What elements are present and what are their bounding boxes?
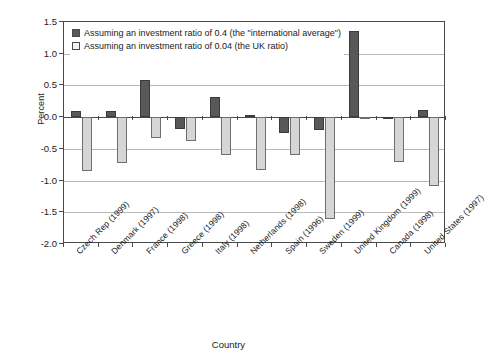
- x-tick-mark: [376, 116, 377, 120]
- x-tick-mark: [63, 243, 64, 247]
- x-tick-mark: [237, 243, 238, 247]
- x-tick-mark: [98, 116, 99, 120]
- x-tick-mark: [167, 116, 168, 120]
- bar: [186, 117, 196, 141]
- x-tick-mark: [410, 243, 411, 247]
- y-tick-mark: [59, 148, 63, 149]
- legend-label: Assuming an investment ratio of 0.4 (the…: [84, 28, 341, 38]
- y-tick-mark: [59, 211, 63, 212]
- x-tick-mark: [98, 243, 99, 247]
- legend-swatch-icon: [72, 42, 80, 50]
- bar: [383, 117, 393, 119]
- x-tick-mark: [445, 243, 446, 247]
- x-tick-mark: [445, 116, 446, 120]
- gridline: [64, 85, 444, 86]
- legend-label: Assuming an investment ratio of 0.04 (th…: [84, 41, 288, 51]
- bar: [429, 117, 439, 186]
- bar: [210, 97, 220, 117]
- legend-swatch-icon: [72, 29, 80, 37]
- y-tick-label: -2.0: [17, 238, 57, 249]
- bar: [117, 117, 127, 163]
- x-tick-mark: [341, 116, 342, 120]
- y-tick-label: -1.5: [17, 206, 57, 217]
- bar: [279, 117, 289, 133]
- x-tick-mark: [271, 116, 272, 120]
- bar: [290, 117, 300, 155]
- bar: [418, 110, 428, 118]
- x-tick-mark: [132, 116, 133, 120]
- bar: [394, 117, 404, 161]
- x-tick-mark: [167, 243, 168, 247]
- bar: [360, 117, 370, 119]
- x-tick-mark: [271, 243, 272, 247]
- legend-item: Assuming an investment ratio of 0.4 (the…: [72, 27, 341, 39]
- x-tick-mark: [341, 243, 342, 247]
- x-tick-mark: [306, 116, 307, 120]
- x-tick-mark: [202, 116, 203, 120]
- bar: [82, 117, 92, 171]
- bar: [175, 117, 185, 128]
- y-tick-mark: [59, 84, 63, 85]
- y-tick-mark: [59, 21, 63, 22]
- chart-legend: Assuming an investment ratio of 0.4 (the…: [70, 25, 344, 55]
- y-tick-label: 1.0: [17, 47, 57, 58]
- bar: [256, 117, 266, 170]
- bar: [314, 117, 324, 130]
- x-tick-mark: [410, 116, 411, 120]
- bar: [245, 115, 255, 118]
- gridline: [64, 181, 444, 182]
- x-tick-mark: [132, 243, 133, 247]
- y-tick-label: 0.0: [17, 111, 57, 122]
- y-tick-label: 0.5: [17, 79, 57, 90]
- bar: [140, 80, 150, 117]
- x-tick-mark: [237, 116, 238, 120]
- y-tick-mark: [59, 53, 63, 54]
- y-tick-label: 1.5: [17, 16, 57, 27]
- x-tick-mark: [63, 116, 64, 120]
- bar: [71, 111, 81, 117]
- bar: [106, 111, 116, 117]
- y-tick-label: -1.0: [17, 174, 57, 185]
- x-axis-title: Country: [0, 339, 457, 350]
- bar: [151, 117, 161, 138]
- x-tick-mark: [202, 243, 203, 247]
- x-tick-mark: [376, 243, 377, 247]
- y-tick-label: -0.5: [17, 142, 57, 153]
- bar: [221, 117, 231, 155]
- bar: [349, 31, 359, 117]
- bar: [325, 117, 335, 218]
- y-tick-mark: [59, 180, 63, 181]
- legend-item: Assuming an investment ratio of 0.04 (th…: [72, 40, 341, 52]
- x-tick-mark: [306, 243, 307, 247]
